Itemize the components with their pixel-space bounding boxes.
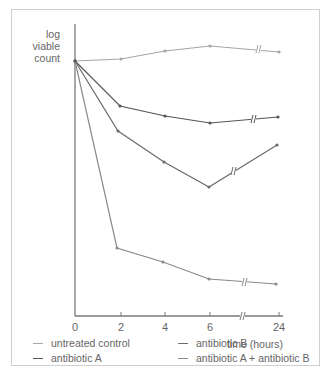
x-tick-6: 6: [207, 321, 213, 333]
legend-item-untreated-control: untreated control: [33, 337, 130, 349]
legend-swatch-icon: [178, 343, 188, 344]
x-tick-0: 0: [72, 321, 78, 333]
series-antibiotic-b: [75, 61, 279, 189]
series-antibiotic-a: [75, 61, 280, 125]
x-tick-24: 24: [273, 321, 285, 333]
legend-item-antibiotic-b: antibiotic B: [178, 337, 247, 349]
legend-item-antibiotic-a: antibiotic A: [33, 352, 102, 364]
legend-label: untreated control: [51, 337, 130, 349]
series-untreated-control: [75, 44, 281, 61]
legend-label: antibiotic A: [51, 352, 102, 364]
legend-item-antibiotic-a-plus-b: antibiotic A + antibiotic B: [178, 352, 310, 364]
legend-swatch-icon: [33, 358, 43, 359]
legend-label: antibiotic A + antibiotic B: [196, 352, 310, 364]
legend-swatch-icon: [33, 343, 43, 344]
legend-label: antibiotic B: [196, 337, 247, 349]
x-tick-2: 2: [118, 321, 124, 333]
x-axis-break-icon: [240, 312, 245, 320]
origin-point: [73, 59, 77, 63]
series-antibiotic-a-plus-b: [75, 61, 278, 286]
legend-swatch-icon: [178, 358, 188, 359]
x-tick-4: 4: [162, 321, 168, 333]
